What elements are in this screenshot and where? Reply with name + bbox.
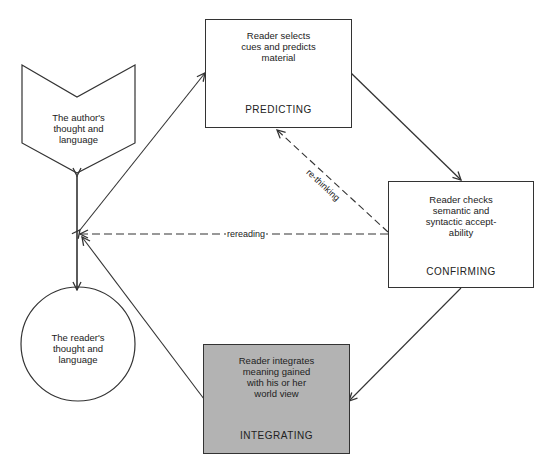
confirming-desc-4: ability xyxy=(389,227,533,238)
integrating-desc-1: Reader integrates xyxy=(204,355,349,366)
edge-rethinking xyxy=(277,130,388,232)
integrating-box: Reader integrates meaning gained with hi… xyxy=(203,344,350,454)
reader-line-2: thought and xyxy=(21,343,135,354)
author-label: The author's thought and language xyxy=(22,112,135,145)
confirming-desc-3: syntactic accept- xyxy=(389,216,533,227)
integrating-desc-2: meaning gained xyxy=(204,366,349,377)
edge-predicting-confirming xyxy=(351,73,461,180)
predicting-desc-3: material xyxy=(206,52,351,63)
confirming-box: Reader checks semantic and syntactic acc… xyxy=(388,181,534,288)
predicting-stage: PREDICTING xyxy=(206,104,351,115)
reader-line-3: language xyxy=(21,354,135,365)
author-line-1: The author's xyxy=(22,112,135,123)
reader-line-1: The reader's xyxy=(21,332,135,343)
integrating-stage: INTEGRATING xyxy=(204,430,349,441)
integrating-desc-4: world view xyxy=(204,388,349,399)
reader-label: The reader's thought and language xyxy=(21,332,135,365)
rereading-label: rereading xyxy=(226,229,266,239)
edge-confirming-integrating xyxy=(349,288,461,401)
confirming-stage: CONFIRMING xyxy=(389,266,533,277)
integrating-desc-3: with his or her xyxy=(204,377,349,388)
confirming-desc-1: Reader checks xyxy=(389,194,533,205)
author-line-3: language xyxy=(22,134,135,145)
predicting-desc-2: cues and predicts xyxy=(206,41,351,52)
confirming-desc-2: semantic and xyxy=(389,205,533,216)
author-line-2: thought and xyxy=(22,123,135,134)
predicting-box: Reader selects cues and predicts materia… xyxy=(205,19,352,128)
predicting-desc-1: Reader selects xyxy=(206,30,351,41)
